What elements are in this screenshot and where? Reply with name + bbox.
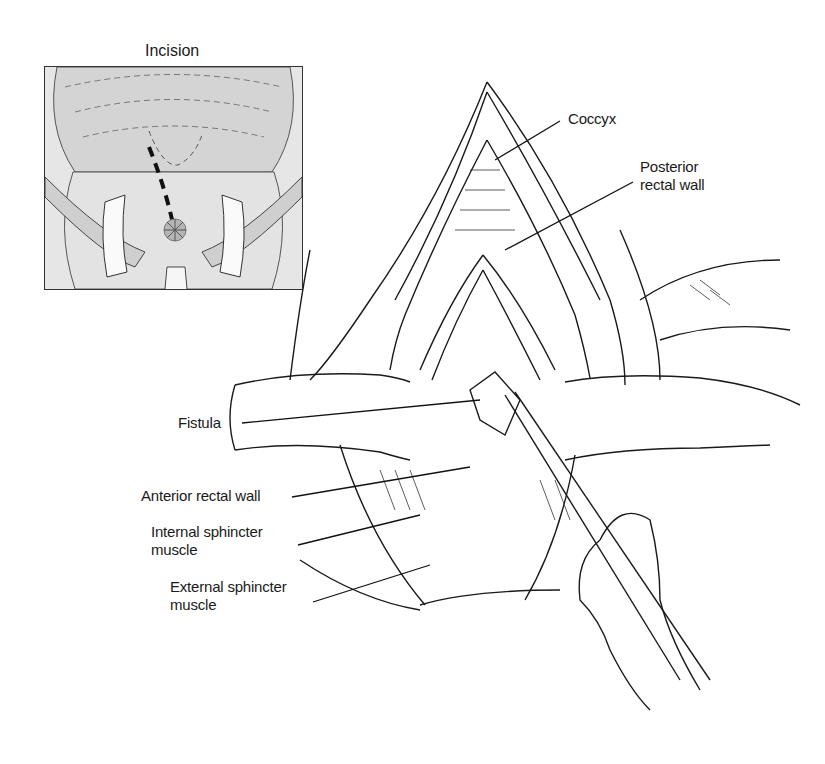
label-coccyx: Coccyx	[568, 110, 616, 128]
label-internal-sphincter-muscle: Internal sphincter muscle	[151, 523, 262, 559]
surgical-field-drawing	[0, 0, 825, 764]
label-fistula: Fistula	[178, 414, 221, 432]
label-anterior-rectal-wall: Anterior rectal wall	[141, 487, 260, 505]
label-external-sphincter-muscle: External sphincter muscle	[170, 578, 286, 614]
surgical-illustration-figure: Incision	[0, 0, 825, 764]
label-posterior-rectal-wall: Posterior rectal wall	[640, 158, 705, 194]
